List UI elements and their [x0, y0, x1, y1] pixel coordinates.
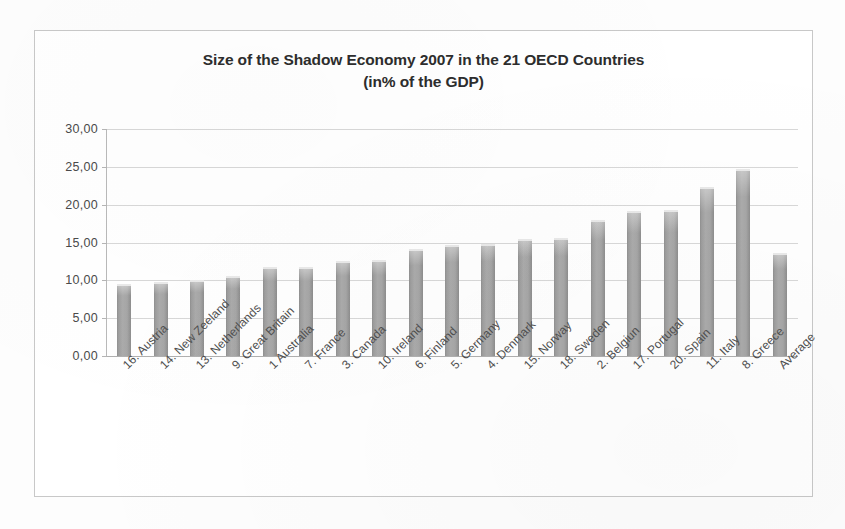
y-axis-tick-label: 15,00 — [65, 236, 98, 250]
bar — [736, 169, 750, 356]
y-axis-tick — [102, 129, 107, 130]
gridline — [106, 243, 798, 244]
gridline — [106, 205, 798, 206]
y-axis-tick-label: 0,00 — [72, 349, 98, 363]
y-axis-tick-label: 25,00 — [65, 160, 98, 174]
y-axis-tick — [102, 243, 107, 244]
gridline — [106, 167, 798, 168]
y-axis-tick — [102, 318, 107, 319]
chart-frame: Size of the Shadow Economy 2007 in the 2… — [34, 30, 813, 497]
plot-wrapper: 0,005,0010,0015,0020,0025,0030,00 16. Au… — [35, 31, 814, 498]
bar — [117, 284, 131, 356]
y-axis-tick-label: 30,00 — [65, 122, 98, 136]
y-axis-tick — [102, 205, 107, 206]
y-axis-tick-label: 10,00 — [65, 273, 98, 287]
y-axis-tick — [102, 167, 107, 168]
y-axis-tick-label: 20,00 — [65, 198, 98, 212]
gridline — [106, 129, 798, 130]
scanned-page: Size of the Shadow Economy 2007 in the 2… — [0, 0, 845, 529]
y-axis-tick-label: 5,00 — [72, 311, 98, 325]
y-axis-tick — [102, 280, 107, 281]
y-axis-tick — [102, 356, 107, 357]
